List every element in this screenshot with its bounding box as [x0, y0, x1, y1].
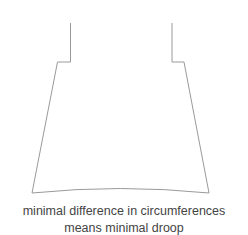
caption-line-2: means minimal droop — [0, 221, 248, 235]
hem-outline-diagram — [0, 0, 248, 235]
outline-shape — [32, 23, 209, 193]
caption-line-1: minimal difference in circumferences — [0, 204, 248, 218]
